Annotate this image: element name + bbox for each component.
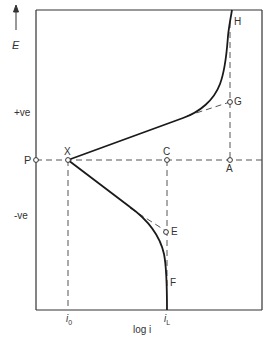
marker-points — [34, 100, 233, 235]
point-c-marker — [165, 158, 170, 163]
point-g-label: G — [234, 97, 242, 107]
point-e-marker — [164, 230, 169, 235]
x-axis-label: log i — [133, 325, 151, 335]
point-h-label: H — [234, 17, 241, 27]
cathodic-curve — [68, 160, 167, 310]
point-f-label: F — [170, 278, 176, 288]
y-axis-label: E — [12, 40, 19, 50]
positive-label: +ve — [14, 108, 30, 118]
point-p-label: P — [24, 155, 31, 165]
point-x-marker — [66, 158, 71, 163]
x-tick-iL-sub: L — [166, 319, 170, 326]
point-x-label: X — [64, 147, 71, 157]
e-axis-arrow-icon — [14, 5, 19, 30]
point-a-marker — [228, 158, 233, 163]
x-tick-i0-sub: 0 — [68, 319, 72, 326]
point-p-marker — [34, 158, 39, 163]
point-e-label: E — [171, 227, 178, 237]
point-a-label: A — [226, 164, 233, 174]
point-c-label: C — [163, 147, 170, 157]
point-g-marker — [228, 100, 233, 105]
anodic-curve — [68, 10, 232, 160]
x-tick-iL: iL — [164, 314, 170, 328]
x-tick-i0: i0 — [66, 314, 72, 328]
negative-label: -ve — [14, 211, 28, 221]
